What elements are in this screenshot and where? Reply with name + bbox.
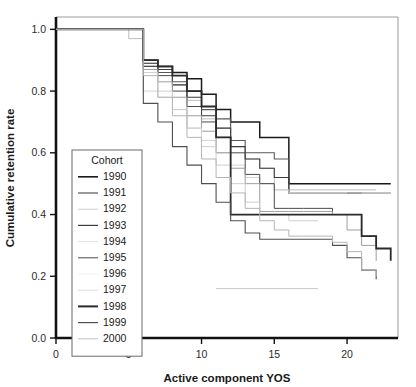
y-axis-ticks: 0.00.20.40.60.81.0 [31, 23, 56, 344]
x-tick-label: 10 [196, 348, 208, 360]
x-tick-label: 15 [268, 348, 280, 360]
legend-label-1998: 1998 [103, 300, 127, 312]
x-tick-label: 20 [341, 348, 353, 360]
legend-label-1993: 1993 [103, 219, 127, 231]
y-tick-label: 0.8 [31, 85, 46, 97]
legend-label-1999: 1999 [103, 316, 127, 328]
legend-label-1996: 1996 [103, 267, 127, 279]
x-axis-title: Active component YOS [164, 372, 291, 384]
legend-label-1990: 1990 [103, 170, 127, 182]
legend-label-1994: 1994 [103, 235, 127, 247]
y-tick-label: 0.2 [31, 270, 46, 282]
x-tick-label: 0 [53, 348, 59, 360]
legend-title: Cohort [91, 154, 123, 166]
y-axis-title: Cumulative retention rate [4, 109, 16, 248]
y-tick-label: 0.4 [31, 208, 46, 220]
y-tick-label: 1.0 [31, 23, 46, 35]
y-tick-label: 0.0 [31, 332, 46, 344]
y-tick-label: 0.6 [31, 146, 46, 158]
legend-label-1997: 1997 [103, 283, 127, 295]
legend-label-1991: 1991 [103, 186, 127, 198]
legend-label-2000: 2000 [103, 332, 127, 344]
chart-legend: Cohort1990199119921993199419951996199719… [72, 150, 142, 356]
legend-label-1995: 1995 [103, 251, 127, 263]
retention-chart-figure: 0.00.20.40.60.81.0 05101520 Cohort199019… [0, 0, 416, 387]
legend-label-1992: 1992 [103, 202, 127, 214]
chart-svg: 0.00.20.40.60.81.0 05101520 Cohort199019… [0, 0, 416, 387]
